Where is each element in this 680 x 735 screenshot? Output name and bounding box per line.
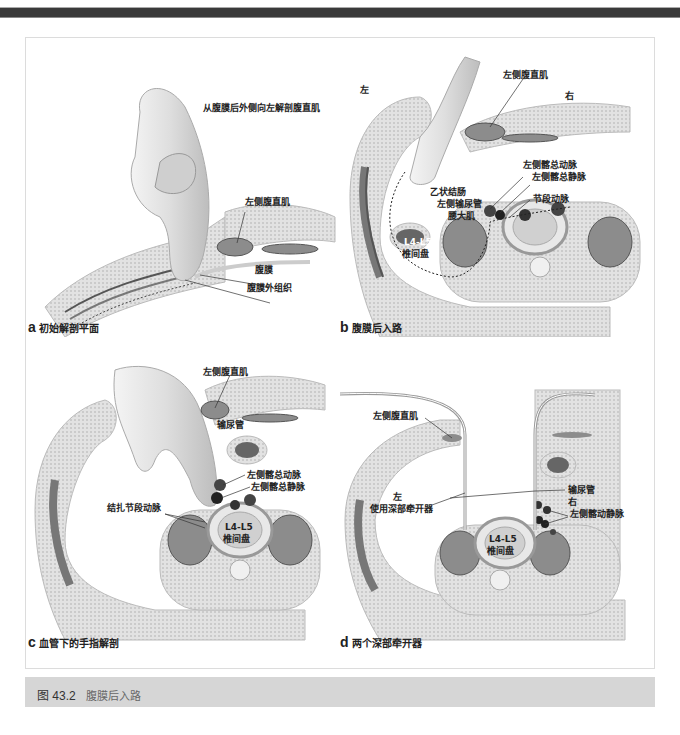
label-left-rectus: 左侧腹直肌 bbox=[245, 197, 290, 208]
panel-d-caption: d两个深部牵开器 bbox=[340, 634, 422, 650]
label-dissect-heading: 从腹膜后外侧向左解剖腹直肌 bbox=[203, 103, 320, 114]
panel-c-caption: c血管下的手指解剖 bbox=[28, 634, 119, 650]
label-ureter: 输尿管 bbox=[217, 420, 244, 431]
label-deep-retractor: 使用深部牵开器 bbox=[370, 504, 433, 515]
panel-b-illustration bbox=[340, 37, 655, 337]
label-disc-level: L4-L5 bbox=[404, 237, 432, 248]
label-sigmoid-colon: 乙状结肠 bbox=[430, 187, 466, 198]
label-left-iliac-vessels: 左侧髂动静脉 bbox=[570, 509, 624, 520]
label-left-common-iliac-vein: 左侧髂总静脉 bbox=[251, 482, 305, 493]
label-left-common-iliac-vein: 左侧髂总静脉 bbox=[532, 172, 586, 183]
label-ureter: 输尿管 bbox=[568, 485, 595, 496]
panel-a-illustration bbox=[25, 37, 340, 337]
panel-c-illustration bbox=[25, 350, 340, 650]
label-left-ureter: 左侧输尿管 bbox=[437, 199, 482, 210]
label-left: 左 bbox=[360, 85, 369, 96]
panel-caption-text: 血管下的手指解剖 bbox=[39, 638, 119, 649]
label-disc: 椎间盘 bbox=[402, 249, 429, 260]
label-left-rectus: 左侧腹直肌 bbox=[203, 367, 248, 378]
panel-letter: a bbox=[28, 319, 36, 335]
panel-a-caption: a初始解剖平面 bbox=[28, 319, 99, 335]
label-left-common-iliac-artery: 左侧髂总动脉 bbox=[247, 470, 301, 481]
label-disc-level: L4-L5 bbox=[489, 534, 517, 545]
label-right: 右 bbox=[565, 91, 574, 102]
panel-c: 左侧腹直肌 输尿管 左侧髂总动脉 左侧髂总静脉 结扎节段动脉 L4-L5 椎间盘… bbox=[25, 350, 340, 650]
label-right: 右 bbox=[568, 497, 577, 508]
label-left-rectus: 左侧腹直肌 bbox=[373, 411, 418, 422]
label-left: 左 bbox=[393, 492, 402, 503]
figure-number: 图 43.2 bbox=[37, 689, 76, 703]
label-disc-level: L4-L5 bbox=[225, 522, 253, 533]
label-left-rectus: 左侧腹直肌 bbox=[503, 70, 548, 81]
panel-d: 左侧腹直肌 左 使用深部牵开器 输尿管 右 左侧髂动静脉 L4-L5 椎间盘 d… bbox=[340, 350, 655, 650]
figure-title: 腹膜后入路 bbox=[86, 690, 141, 703]
panel-b: 左 右 左侧腹直肌 左侧髂总动脉 左侧髂总静脉 乙状结肠 左侧输尿管 腰大肌 节… bbox=[340, 37, 655, 337]
panel-letter: c bbox=[28, 634, 36, 650]
panel-caption-text: 两个深部牵开器 bbox=[352, 638, 422, 649]
label-extraperitoneal-tissue: 腹膜外组织 bbox=[247, 283, 292, 294]
label-ligate-segmental-artery: 结扎节段动脉 bbox=[107, 503, 161, 514]
label-left-common-iliac-artery: 左侧髂总动脉 bbox=[523, 160, 577, 171]
label-disc: 椎间盘 bbox=[223, 534, 250, 545]
panel-b-caption: b腹膜后入路 bbox=[340, 319, 402, 335]
top-band bbox=[0, 7, 680, 18]
figure-caption: 图 43.2腹膜后入路 bbox=[37, 686, 141, 703]
label-disc: 椎间盘 bbox=[487, 546, 514, 557]
label-peritoneum: 腹膜 bbox=[255, 265, 273, 276]
label-segmental-artery: 节段动脉 bbox=[533, 194, 569, 205]
panel-a: 从腹膜后外侧向左解剖腹直肌 左侧腹直肌 腹膜 腹膜外组织 a初始解剖平面 bbox=[25, 37, 340, 337]
panel-letter: b bbox=[340, 319, 349, 335]
label-psoas: 腰大肌 bbox=[448, 211, 475, 222]
panel-caption-text: 腹膜后入路 bbox=[352, 323, 402, 334]
panel-caption-text: 初始解剖平面 bbox=[39, 323, 99, 334]
panel-d-illustration bbox=[340, 350, 655, 650]
panel-letter: d bbox=[340, 634, 349, 650]
